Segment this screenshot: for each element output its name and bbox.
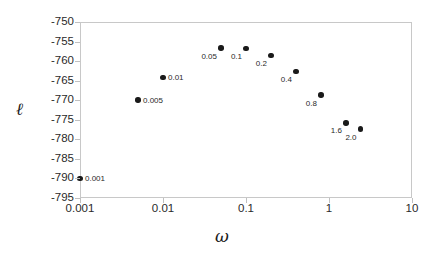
y-axis-title: ℓ xyxy=(16,101,23,118)
x-tick-label: 1 xyxy=(326,203,332,215)
data-point-label: 0.4 xyxy=(281,76,292,84)
y-tick-mark xyxy=(75,22,80,23)
x-tick-mark xyxy=(80,198,81,203)
y-tick-label: -760 xyxy=(28,55,74,67)
data-point xyxy=(135,97,141,103)
x-tick-mark xyxy=(412,198,413,203)
y-tick-label: -765 xyxy=(28,75,74,87)
x-axis-title: ω xyxy=(0,228,444,245)
y-tick-mark xyxy=(75,120,80,121)
x-tick-mark xyxy=(329,198,330,203)
data-point-label: 0.05 xyxy=(201,53,217,61)
data-point-label: 0.005 xyxy=(143,97,163,105)
y-tick-label: -775 xyxy=(28,114,74,126)
x-tick-label: 0.001 xyxy=(66,203,95,215)
data-point xyxy=(318,92,324,98)
x-tick-label: 0.01 xyxy=(152,203,174,215)
data-point xyxy=(268,53,274,59)
y-tick-mark xyxy=(75,42,80,43)
y-tick-label: -785 xyxy=(28,153,74,165)
y-tick-mark xyxy=(75,61,80,62)
data-point-label: 0.2 xyxy=(256,60,267,68)
x-tick-mark xyxy=(163,198,164,203)
x-tick-mark xyxy=(246,198,247,203)
y-tick-label: -750 xyxy=(28,16,74,28)
data-point xyxy=(343,120,349,126)
data-point-label: 1.6 xyxy=(331,127,342,135)
y-tick-mark xyxy=(75,159,80,160)
data-point xyxy=(160,75,166,81)
y-tick-label: -790 xyxy=(28,173,74,185)
y-tick-mark xyxy=(75,81,80,82)
data-point-label: 0.001 xyxy=(85,175,105,183)
y-tick-label: -755 xyxy=(28,36,74,48)
data-point-label: 0.8 xyxy=(306,100,317,108)
y-axis: -750-755-760-765-770-775-780-785-790-795 xyxy=(22,0,74,264)
y-tick-mark xyxy=(75,100,80,101)
y-tick-mark xyxy=(75,178,80,179)
data-point-label: 0.1 xyxy=(231,53,242,61)
data-point-label: 0.01 xyxy=(168,74,184,82)
x-tick-label: 0.1 xyxy=(238,203,254,215)
y-tick-label: -770 xyxy=(28,94,74,106)
y-tick-mark xyxy=(75,139,80,140)
data-point xyxy=(243,46,249,52)
data-point-label: 2.0 xyxy=(345,134,356,142)
data-point xyxy=(218,45,224,51)
scatter-chart: -750-755-760-765-770-775-780-785-790-795… xyxy=(0,0,444,264)
x-tick-label: 10 xyxy=(406,203,419,215)
data-point xyxy=(293,69,299,75)
y-tick-label: -780 xyxy=(28,134,74,146)
